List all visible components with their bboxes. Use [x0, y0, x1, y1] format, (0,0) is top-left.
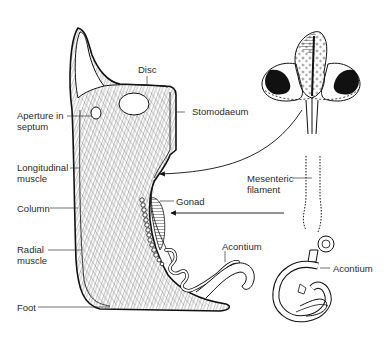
disc-opening: [119, 93, 149, 115]
mesentery-cross-section: [262, 32, 360, 134]
anemone-body-section: [70, 28, 254, 311]
label-acontium-right: Acontium: [333, 263, 373, 274]
label-acontium-left: Acontium: [222, 241, 262, 252]
label-radial-muscle: Radial muscle: [17, 244, 47, 266]
label-longitudinal-muscle: Longitudinal muscle: [17, 162, 68, 184]
label-column: Column: [17, 203, 50, 214]
arrow-to-mesentery: [160, 110, 302, 174]
label-mesenteric-filament: Mesenteric filament: [247, 173, 293, 195]
aperture-in-septum: [91, 107, 101, 119]
label-gonad: Gonad: [176, 196, 205, 207]
acontium-left: [196, 263, 254, 298]
label-disc: Disc: [138, 64, 156, 75]
mesentery-stalk: [306, 98, 318, 134]
label-stomodaeum: Stomodaeum: [192, 106, 249, 117]
label-aperture-in-septum: Aperture in septum: [17, 110, 63, 132]
label-foot: Foot: [17, 302, 36, 313]
